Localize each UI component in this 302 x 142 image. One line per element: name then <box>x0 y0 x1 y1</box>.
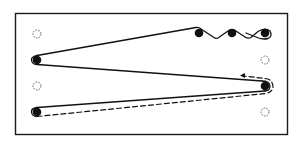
solid-string <box>31 27 271 116</box>
board-frame <box>16 14 288 135</box>
empty-peg-icon <box>33 30 41 38</box>
empty-peg-icon <box>33 82 41 90</box>
diagram-canvas <box>0 0 302 142</box>
peg-icon <box>228 29 237 38</box>
peg-icon <box>261 82 270 91</box>
pegboard-diagram <box>0 0 302 142</box>
peg-icon <box>33 56 42 65</box>
dashed-string <box>37 76 273 117</box>
arrow-left-icon <box>240 73 245 78</box>
peg-icon <box>33 108 42 117</box>
empty-peg-icon <box>261 56 269 64</box>
empty-peg-icon <box>261 108 269 116</box>
peg-icon <box>195 29 204 38</box>
peg-icon <box>261 29 270 38</box>
